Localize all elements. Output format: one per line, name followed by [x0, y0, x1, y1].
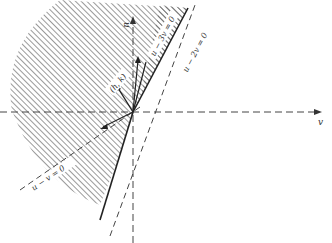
diagram-canvas: u v (h, k) u − 3v = 0 u − 2v = 0 u − v =…	[0, 0, 332, 243]
u-axis-label: u	[122, 22, 132, 28]
v-axis-label: v	[318, 117, 323, 127]
line-u-2v-label: u − 2v = 0	[181, 31, 209, 74]
v-axis-arrow-icon	[314, 109, 322, 115]
